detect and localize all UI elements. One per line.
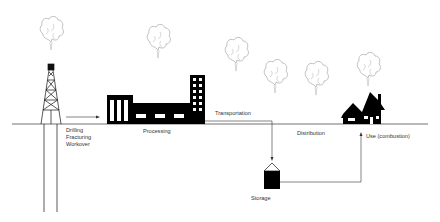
stage-label-distribution: Distribution xyxy=(297,130,325,137)
emission-plume-icon xyxy=(225,37,248,71)
stage-label-well: Drilling Fracturing Workover xyxy=(66,127,91,148)
factory-icon xyxy=(107,75,205,124)
emission-plume-icon xyxy=(264,59,287,93)
stage-label-storage: Storage xyxy=(251,195,271,202)
flow-arrow xyxy=(360,132,363,136)
emission-plume-icon xyxy=(40,16,63,50)
emission-plume-icon xyxy=(305,61,328,95)
label-workover: Workover xyxy=(66,141,91,148)
stage-label-use: Use (combustion) xyxy=(366,133,410,140)
drilling-rig-icon xyxy=(41,64,61,212)
house-icon xyxy=(341,92,385,124)
label-fracturing: Fracturing xyxy=(66,134,91,141)
flow-arrow xyxy=(66,116,100,119)
transportation-line xyxy=(205,121,272,158)
flow-arrow xyxy=(271,157,274,161)
emission-plume-icon xyxy=(147,24,170,58)
supply-chain-diagram: Drilling Fracturing Workover Processing … xyxy=(0,0,440,222)
stage-label-transportation: Transportation xyxy=(215,110,251,117)
label-drilling: Drilling xyxy=(66,127,91,134)
stage-label-processing: Processing xyxy=(143,128,171,135)
emission-plume-icon xyxy=(357,52,380,86)
storage-tank-icon xyxy=(264,163,280,189)
distribution-line xyxy=(280,135,361,182)
